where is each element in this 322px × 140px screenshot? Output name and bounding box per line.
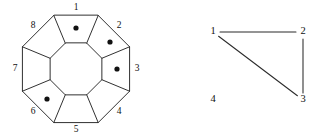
- sector-label-8: 8: [31, 20, 36, 30]
- graph-vertex-label-4: 4: [210, 93, 216, 104]
- sector-marker-dot-1: [73, 25, 78, 30]
- octagon-spoke: [102, 47, 130, 58]
- octagon-spoke: [87, 95, 98, 123]
- octagon-spoke: [87, 15, 98, 43]
- sector-label-7: 7: [13, 63, 18, 73]
- octagon-spoke: [22, 80, 50, 91]
- diagram-canvas: 123456781234: [0, 0, 322, 140]
- sector-marker-dot-6: [44, 96, 49, 101]
- octagon-group: 12345678: [13, 2, 140, 134]
- octagon-spoke: [54, 15, 65, 43]
- octagon-inner-boundary: [50, 43, 102, 95]
- sector-label-3: 3: [135, 63, 140, 73]
- graph-vertex-label-2: 2: [300, 25, 305, 36]
- sector-label-6: 6: [31, 106, 36, 116]
- sector-label-2: 2: [117, 20, 122, 30]
- vertex-graph-group: 1234: [210, 25, 305, 104]
- sector-marker-dot-2: [107, 39, 112, 44]
- sector-label-1: 1: [74, 2, 79, 12]
- sector-label-5: 5: [74, 124, 79, 134]
- graph-vertex-label-1: 1: [210, 25, 215, 36]
- sector-label-4: 4: [117, 106, 122, 116]
- graph-vertex-label-3: 3: [300, 93, 305, 104]
- sector-marker-dot-3: [114, 66, 119, 71]
- octagon-outer-boundary: [22, 15, 129, 122]
- octagon-spoke: [102, 80, 130, 91]
- octagon-spoke: [54, 95, 65, 123]
- figure-root: 123456781234: [0, 0, 322, 140]
- octagon-spoke: [22, 47, 50, 58]
- graph-edge-1-3: [219, 36, 298, 96]
